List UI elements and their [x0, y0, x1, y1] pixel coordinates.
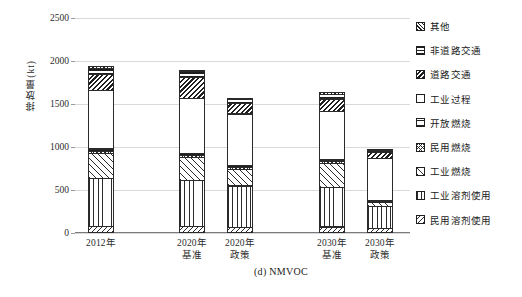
legend-label: 非道路交通 [430, 43, 482, 57]
bar-segment[interactable] [88, 153, 114, 179]
legend-item[interactable]: 非道路交通 [416, 38, 520, 62]
bar-segment[interactable] [179, 180, 205, 227]
y-axis-tick-label: 0 [23, 228, 69, 238]
figure-caption: (d) NMVOC [0, 266, 522, 277]
bar-segment[interactable] [227, 169, 253, 187]
legend-item[interactable]: 其他 [416, 14, 520, 38]
legend-label: 工业燃烧 [430, 164, 471, 178]
y-axis-tick-label: 2000 [23, 56, 69, 66]
bar-segment[interactable] [88, 226, 114, 233]
legend-item[interactable]: 开放燃烧 [416, 111, 520, 135]
chart-figure: 排放量(kt) 25002000150010005000 2012年2020年基… [0, 0, 522, 297]
legend-swatch-icon [416, 94, 425, 103]
y-axis-tick-mark [71, 147, 75, 148]
stacked-bar[interactable] [227, 98, 253, 233]
bar-segment[interactable] [319, 187, 345, 227]
gridline [75, 18, 410, 19]
legend-swatch-icon [416, 215, 425, 224]
x-axis-label: 2030年政策 [345, 237, 415, 261]
bar-segment[interactable] [227, 114, 253, 166]
bar-segment[interactable] [88, 90, 114, 149]
legend-item[interactable]: 民用溶剂使用 [416, 208, 520, 232]
y-axis-tick-mark [71, 61, 75, 62]
y-axis-tick-label: 2500 [23, 13, 69, 23]
x-axis-label: 2012年 [66, 237, 136, 249]
chart-legend: 其他非道路交通道路交通工业过程开放燃烧民用燃烧工业燃烧工业溶剂使用民用溶剂使用 [416, 14, 520, 232]
bar-segment[interactable] [319, 227, 345, 233]
gridline [75, 233, 410, 234]
y-axis-tick-mark [71, 18, 75, 19]
x-axis-label-line1: 2020年 [205, 237, 275, 249]
legend-item[interactable]: 道路交通 [416, 62, 520, 86]
x-axis-label-line2: 政策 [345, 249, 415, 261]
y-axis-tick-mark [71, 190, 75, 191]
bar-segment[interactable] [367, 228, 393, 233]
bar-segment[interactable] [319, 163, 345, 188]
y-axis-tick-label: 500 [23, 185, 69, 195]
legend-swatch-icon [416, 167, 425, 176]
y-axis-tick-label: 1000 [23, 142, 69, 152]
stacked-bar[interactable] [179, 70, 205, 233]
x-axis-label-line2: 政策 [205, 249, 275, 261]
legend-label: 道路交通 [430, 67, 471, 81]
legend-label: 民用燃烧 [430, 140, 471, 154]
legend-swatch-icon [416, 22, 425, 31]
legend-swatch-icon [416, 70, 425, 79]
y-axis-tick-mark [71, 104, 75, 105]
y-axis-tick-label: 1500 [23, 99, 69, 109]
bar-segment[interactable] [319, 111, 345, 160]
x-axis-label: 2020年政策 [205, 237, 275, 261]
legend-item[interactable]: 工业过程 [416, 87, 520, 111]
bar-segment[interactable] [179, 98, 205, 154]
plot-area: 25002000150010005000 [75, 18, 410, 233]
bar-segment[interactable] [227, 227, 253, 233]
legend-label: 工业溶剂使用 [430, 188, 492, 202]
legend-label: 开放燃烧 [430, 116, 471, 130]
bar-segment[interactable] [179, 77, 205, 99]
bar-segment[interactable] [367, 158, 393, 201]
x-axis-label-line1: 2012年 [66, 237, 136, 249]
legend-label: 民用溶剂使用 [430, 213, 492, 227]
legend-item[interactable]: 工业燃烧 [416, 159, 520, 183]
x-axis-label-line1: 2030年 [345, 237, 415, 249]
y-axis-tick-mark [71, 233, 75, 234]
bar-segment[interactable] [88, 74, 114, 91]
legend-swatch-icon [416, 191, 425, 200]
stacked-bar[interactable] [367, 149, 393, 233]
stacked-bar[interactable] [88, 66, 114, 233]
bar-segment[interactable] [367, 206, 393, 229]
gridline [75, 61, 410, 62]
legend-item[interactable]: 民用燃烧 [416, 135, 520, 159]
legend-swatch-icon [416, 46, 425, 55]
stacked-bar[interactable] [319, 92, 345, 233]
bar-segment[interactable] [319, 99, 345, 112]
legend-swatch-icon [416, 118, 425, 127]
bar-segment[interactable] [179, 226, 205, 233]
legend-label: 其他 [430, 19, 451, 33]
legend-item[interactable]: 工业溶剂使用 [416, 183, 520, 207]
legend-swatch-icon [416, 143, 425, 152]
bar-segment[interactable] [227, 186, 253, 228]
bar-segment[interactable] [88, 178, 114, 226]
bar-segment[interactable] [179, 157, 205, 181]
legend-label: 工业过程 [430, 92, 471, 106]
figure-caption-text: (d) NMVOC [214, 266, 308, 277]
